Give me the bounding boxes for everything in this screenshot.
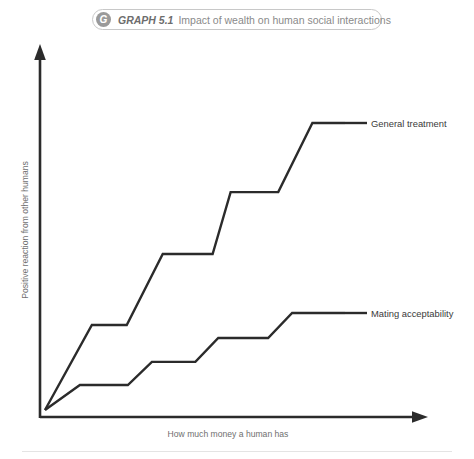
footer-divider <box>22 451 452 452</box>
x-axis-label: How much money a human has <box>168 429 289 439</box>
series-line-general-treatment <box>45 123 345 410</box>
x-axis-arrowhead-icon <box>412 411 428 423</box>
series-label-general-treatment: General treatment <box>371 118 447 129</box>
chart-svg: General treatment Mating acceptability H… <box>0 0 474 459</box>
y-axis-arrowhead-icon <box>34 44 46 60</box>
y-axis-label: Positive reaction from other humans <box>20 161 30 299</box>
series-label-mating-acceptability: Mating acceptability <box>371 308 454 319</box>
chart-plot-area: General treatment Mating acceptability H… <box>0 0 474 459</box>
